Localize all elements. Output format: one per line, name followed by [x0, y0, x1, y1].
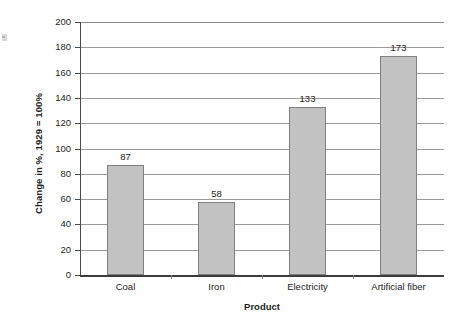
bar-iron [198, 202, 235, 275]
y-tick-label: 40 [25, 218, 71, 229]
y-tick-label: 120 [25, 117, 71, 128]
bar-value-label: 173 [369, 42, 429, 53]
y-tick-label: 20 [25, 244, 71, 255]
y-tick-mark [75, 22, 80, 23]
x-axis-title: Product [80, 301, 444, 312]
bar-value-label: 87 [96, 151, 156, 162]
scan-artifact-speck [2, 36, 5, 38]
y-tick-label: 200 [25, 16, 71, 27]
x-axis-separator [353, 275, 354, 279]
bar-value-label: 58 [187, 188, 247, 199]
y-axis-line [80, 22, 81, 275]
y-tick-mark [75, 123, 80, 124]
y-tick-label: 80 [25, 168, 71, 179]
y-tick-label: 60 [25, 193, 71, 204]
y-tick-label: 180 [25, 41, 71, 52]
y-tick-label: 160 [25, 67, 71, 78]
bar-coal [107, 165, 144, 275]
y-tick-label: 0 [25, 269, 71, 280]
y-tick-mark [75, 174, 80, 175]
y-tick-mark [75, 199, 80, 200]
gridline [80, 22, 444, 23]
bar-electricity [289, 107, 326, 275]
bar-chart: Change in %, 1929 = 100% 200180160140120… [0, 0, 461, 325]
y-tick-mark [75, 250, 80, 251]
y-tick-mark [75, 149, 80, 150]
y-tick-mark [75, 98, 80, 99]
y-tick-mark [75, 224, 80, 225]
x-category-label: Artificial fiber [344, 281, 454, 292]
y-tick-mark [75, 73, 80, 74]
y-tick-label: 100 [25, 143, 71, 154]
bar-artificial-fiber [380, 56, 417, 275]
y-tick-mark [75, 275, 80, 276]
bar-value-label: 133 [278, 93, 338, 104]
y-tick-label: 140 [25, 92, 71, 103]
x-axis-separator [262, 275, 263, 279]
x-axis-separator [171, 275, 172, 279]
y-tick-mark [75, 47, 80, 48]
